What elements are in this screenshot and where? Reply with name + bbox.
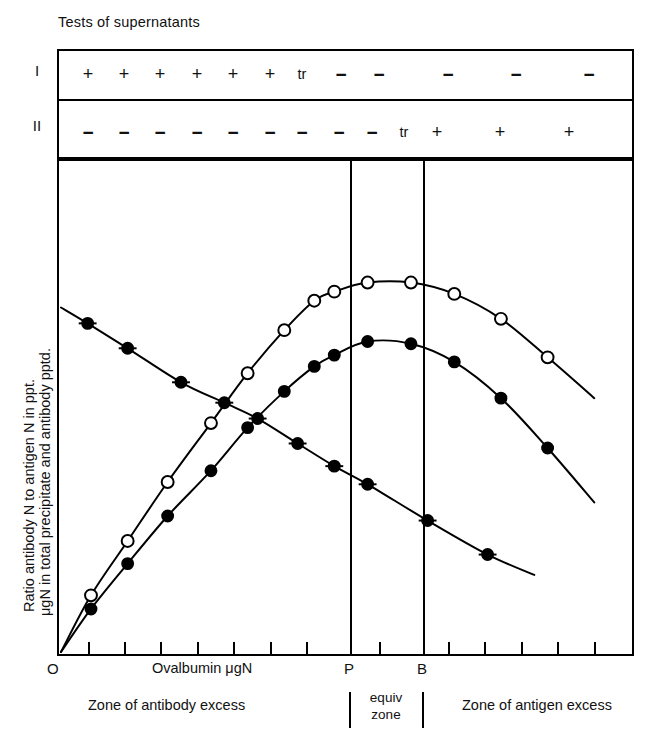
series-0-point-8 [328, 286, 340, 298]
supernatant-row-i-cell-11: − [583, 65, 594, 84]
supernatant-row-i-cell-4: + [228, 65, 239, 83]
series-0-point-9 [362, 277, 374, 289]
equiv-zone-right-bar [422, 692, 424, 728]
series-1-point-5 [242, 422, 253, 433]
series-2-point-3 [176, 377, 187, 388]
series-0-point-5 [242, 367, 254, 379]
supernatant-row-i-cell-2: + [155, 65, 166, 83]
series-1-point-4 [206, 465, 217, 476]
p-marker-label: P [344, 660, 354, 677]
equiv-zone-label: equiv zone [370, 690, 402, 724]
series-1-point-10 [405, 338, 416, 349]
series-1-point-1 [86, 603, 97, 614]
supernatant-row-II [59, 101, 632, 159]
x-tick-1 [124, 642, 126, 656]
series-2-point-5 [252, 413, 263, 424]
series-0-point-2 [122, 535, 134, 547]
series-0-point-12 [495, 313, 507, 325]
x-tick-5 [270, 642, 272, 656]
supernatant-row-i-cell-9: − [442, 65, 453, 84]
supernatant-row-i-cell-0: + [83, 65, 94, 83]
series-1-point-8 [329, 350, 340, 361]
supernatant-row-ii-cell-3: − [191, 123, 202, 142]
series-2-point-8 [362, 479, 373, 490]
supernatant-row-i-cell-5: + [265, 65, 276, 83]
supernatant-row-ii-cell-8: − [366, 123, 377, 142]
supernatant-row-label-I: I [22, 62, 52, 79]
series-0-point-7 [308, 295, 320, 307]
supernatant-row-ii-cell-11: + [495, 123, 506, 141]
series-0-point-1 [85, 589, 97, 601]
series-0-point-6 [278, 324, 290, 336]
supernatant-row-ii-cell-0: − [82, 123, 93, 142]
series-2-point-6 [292, 438, 303, 449]
supernatant-row-i-cell-6: tr [298, 67, 307, 82]
y-axis-label-line2: μgN in total precipitate and antibody pp… [36, 348, 56, 616]
x-tick-3 [197, 642, 199, 656]
supernatant-row-ii-cell-10: + [432, 123, 443, 141]
series-1-point-2 [122, 558, 133, 569]
x-tick-11 [557, 642, 559, 656]
series-1-point-13 [542, 443, 553, 454]
series-1-point-11 [449, 356, 460, 367]
equiv-zone-line2: zone [370, 707, 402, 724]
series-1-point-6 [279, 386, 290, 397]
supernatant-row-ii-cell-6: − [296, 123, 307, 142]
series-2-point-2 [122, 343, 133, 354]
series-2-point-7 [329, 461, 340, 472]
x-tick-0 [88, 642, 90, 656]
supernatant-row-ii-cell-12: + [564, 123, 575, 141]
x-tick-2 [160, 642, 162, 656]
supernatant-row-i-cell-7: − [335, 65, 346, 84]
series-0-point-3 [162, 476, 174, 488]
series-1-point-12 [495, 393, 506, 404]
supernatant-row-ii-cell-1: − [118, 123, 129, 142]
series-1 [61, 336, 594, 652]
series-1-point-7 [309, 361, 320, 372]
x-tick-4 [233, 642, 235, 656]
x-axis-label: Ovalbumin μgN [152, 660, 252, 676]
series-1-point-9 [362, 336, 373, 347]
series-0 [61, 277, 594, 652]
series-2-point-9 [422, 515, 433, 526]
supernatant-row-ii-cell-2: − [154, 123, 165, 142]
x-tick-6 [306, 642, 308, 656]
series-2-point-10 [482, 549, 493, 560]
x-tick-9 [484, 642, 486, 656]
origin-label: O [47, 660, 59, 677]
equiv-zone-left-bar [349, 692, 351, 728]
curves-svg [59, 161, 632, 654]
plot-area [57, 159, 634, 656]
x-tick-12 [594, 642, 596, 656]
equiv-zone-line1: equiv [370, 690, 402, 707]
series-1-line [61, 340, 594, 652]
b-marker-label: B [417, 660, 427, 677]
series-0-point-11 [448, 288, 460, 300]
supernatant-row-ii-cell-9: tr [400, 125, 409, 140]
supernatant-row-i-cell-3: + [192, 65, 203, 83]
series-2-point-1 [82, 318, 93, 329]
x-tick-10 [521, 642, 523, 656]
series-0-point-10 [405, 277, 417, 289]
figure-container: Tests of supernatants I II ++++++tr−−−−−… [0, 0, 656, 743]
x-tick-7 [379, 642, 381, 656]
supernatant-row-i-cell-10: − [510, 65, 521, 84]
supernatant-row-ii-cell-4: − [227, 123, 238, 142]
zone-antigen-excess-label: Zone of antigen excess [462, 697, 612, 713]
supernatant-row-label-II: II [22, 117, 52, 134]
series-2-point-4 [219, 397, 230, 408]
series-1-point-3 [162, 511, 173, 522]
supernatant-row-i-cell-8: − [373, 65, 384, 84]
x-tick-8 [448, 642, 450, 656]
zone-antibody-excess-label: Zone of antibody excess [88, 697, 245, 713]
figure-title: Tests of supernatants [58, 14, 200, 30]
series-0-point-13 [542, 351, 554, 363]
supernatant-row-ii-cell-7: − [333, 123, 344, 142]
supernatant-row-ii-cell-5: − [264, 123, 275, 142]
series-0-point-4 [205, 417, 217, 429]
supernatant-row-i-cell-1: + [119, 65, 130, 83]
